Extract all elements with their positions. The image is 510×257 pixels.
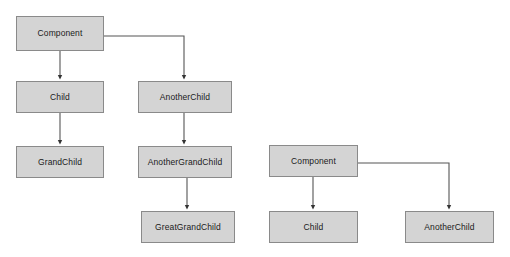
node-child[interactable]: Child [16, 81, 104, 113]
node-label: GreatGrandChild [155, 223, 221, 232]
node-label: AnotherChild [424, 223, 474, 232]
node-anotherchild[interactable]: AnotherChild [138, 81, 232, 113]
component-hierarchy-diagram: Component Child AnotherChild GrandChild … [0, 0, 510, 257]
node-anotherchild-2[interactable]: AnotherChild [405, 211, 494, 243]
edge-component2-to-anotherchild2 [358, 163, 449, 207]
node-label: GrandChild [38, 158, 82, 167]
node-anothergrandchild[interactable]: AnotherGrandChild [138, 146, 232, 178]
node-label: Component [291, 157, 336, 166]
node-label: Child [304, 223, 324, 232]
edge-component-to-anotherchild [104, 36, 184, 77]
node-grandchild[interactable]: GrandChild [16, 146, 104, 178]
node-child-2[interactable]: Child [269, 211, 358, 243]
node-greatgrandchild[interactable]: GreatGrandChild [141, 211, 235, 243]
node-component-2[interactable]: Component [269, 145, 358, 177]
node-label: AnotherGrandChild [148, 158, 222, 167]
node-label: Child [50, 93, 70, 102]
node-label: AnotherChild [160, 93, 210, 102]
node-component[interactable]: Component [16, 16, 104, 51]
node-label: Component [38, 29, 83, 38]
